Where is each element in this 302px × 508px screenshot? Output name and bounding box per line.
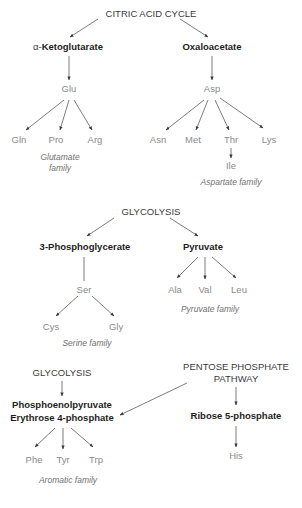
arrow-pyruvate-to-leu <box>212 257 236 278</box>
aromatic-family-label: Aromatic family <box>38 475 98 485</box>
trp-label: Trp <box>89 454 103 465</box>
val-label: Val <box>198 284 211 295</box>
arg-label: Arg <box>88 134 103 145</box>
ribose-5-phosphate-label: Ribose 5-phosphate <box>191 410 282 421</box>
arrow-pyruvate-to-ala <box>177 257 198 278</box>
arrow-glycolysis-to-3pg <box>87 218 114 236</box>
glutamate-family-label-line1: Glutamate <box>40 152 79 162</box>
citric-acid-cycle-label: CITRIC ACID CYCLE <box>106 8 197 19</box>
ala-label: Ala <box>168 284 182 295</box>
leu-label: Leu <box>231 284 247 295</box>
arrow-glu-to-pro <box>60 100 69 130</box>
gly-label: Gly <box>109 321 124 332</box>
arrow-pentose-to-erythrose <box>120 383 187 415</box>
3-phosphoglycerate-label: 3-Phosphoglycerate <box>40 241 131 252</box>
glycolysis-label-2: GLYCOLYSIS <box>33 367 92 378</box>
arrow-asp-to-thr <box>215 100 229 130</box>
arrow-glycolysis-to-pyruvate <box>170 218 198 236</box>
asn-label: Asn <box>150 134 166 145</box>
arrow-e4p-to-phe <box>35 428 55 447</box>
arrow-ser-to-cys <box>56 296 78 316</box>
his-label: His <box>229 450 243 461</box>
gln-label: Gln <box>12 134 27 145</box>
arrow-glu-to-arg <box>74 100 92 130</box>
arrow-cac-to-akg <box>70 19 98 37</box>
tyr-label: Tyr <box>56 454 69 465</box>
phosphoenolpyruvate-label: Phosphoenolpyruvate <box>12 399 112 410</box>
serine-family-label: Serine family <box>62 338 112 348</box>
erythrose-4-phosphate-label: Erythrose 4-phosphate <box>10 412 113 423</box>
arrow-asp-to-asn <box>166 100 204 130</box>
arrow-e4p-to-trp <box>71 428 93 447</box>
pentose-phosphate-label-line1: PENTOSE PHOSPHATE <box>183 361 289 372</box>
cys-label: Cys <box>43 321 60 332</box>
arrow-glu-to-gln <box>26 100 64 130</box>
ile-label: Ile <box>226 160 236 171</box>
glycolysis-label-1: GLYCOLYSIS <box>122 206 181 217</box>
aspartate-family-label: Aspartate family <box>200 177 263 187</box>
arrow-ser-to-gly <box>92 296 114 316</box>
oxaloacetate-label: Oxaloacetate <box>182 41 241 52</box>
phe-label: Phe <box>26 454 43 465</box>
lys-label: Lys <box>262 134 277 145</box>
alpha-ketoglutarate-label: α-Ketoglutarate <box>33 41 103 52</box>
asp-label: Asp <box>204 83 220 94</box>
arrow-asp-to-lys <box>220 98 263 128</box>
pyruvate-label: Pyruvate <box>183 241 223 252</box>
pentose-phosphate-label-line2: PATHWAY <box>214 373 259 384</box>
pyruvate-family-label: Pyruvate family <box>181 304 240 314</box>
met-label: Met <box>185 134 201 145</box>
pro-label: Pro <box>49 134 64 145</box>
glutamate-family-label-line2: family <box>49 163 72 173</box>
arrow-cac-to-oaa <box>180 19 208 37</box>
amino-acid-biosynthesis-diagram: CITRIC ACID CYCLE α-Ketoglutarate Oxaloa… <box>0 0 302 508</box>
ser-label: Ser <box>77 284 92 295</box>
glu-label: Glu <box>62 83 77 94</box>
thr-label: Thr <box>224 134 238 145</box>
